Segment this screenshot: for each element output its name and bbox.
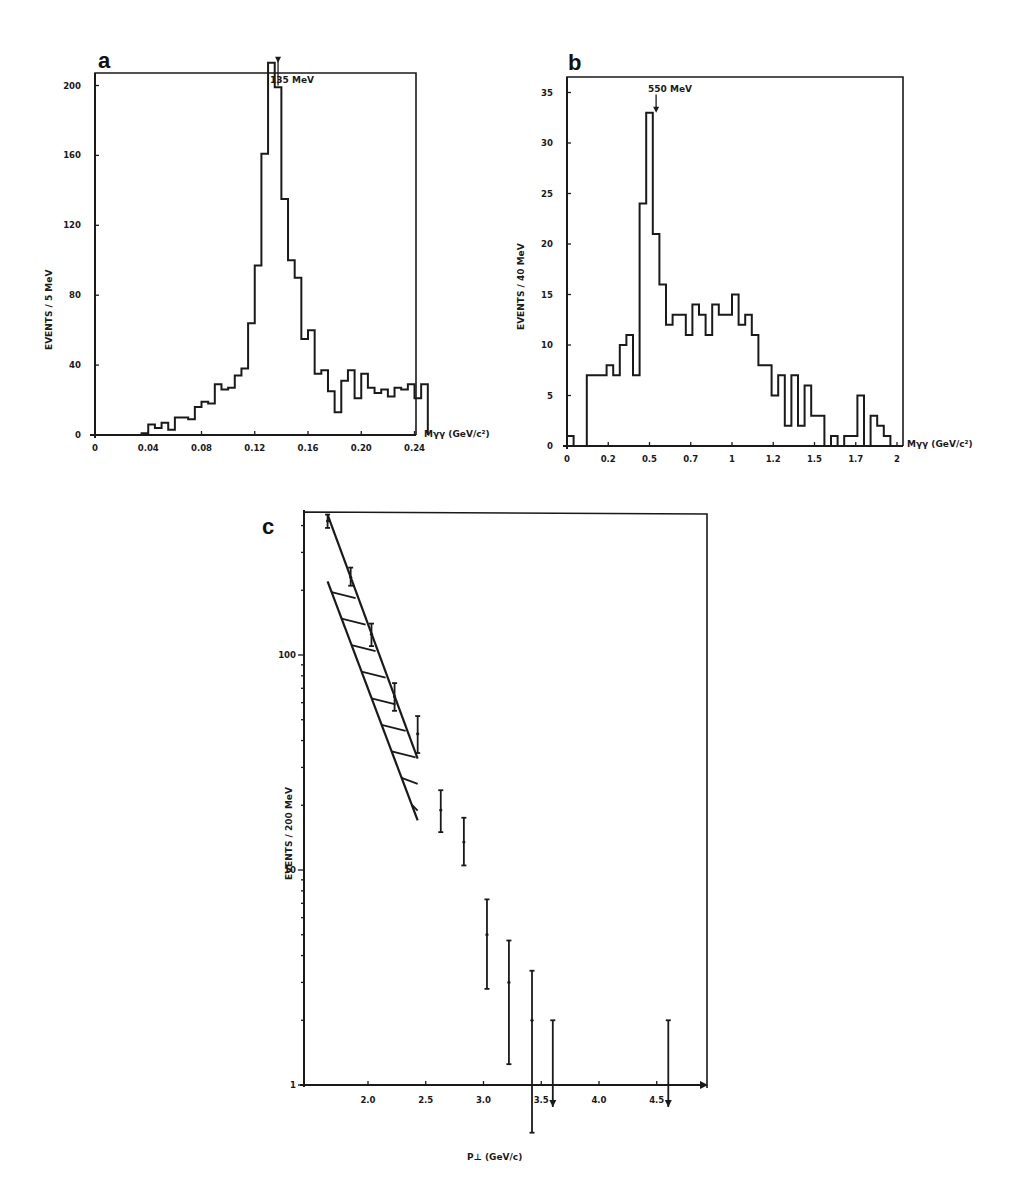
point-marker xyxy=(349,576,352,579)
data-point xyxy=(415,716,420,753)
down-arrow-icon xyxy=(665,1100,672,1107)
point-marker xyxy=(326,519,329,522)
histogram-bin xyxy=(805,385,812,446)
histogram-bin xyxy=(785,426,792,446)
histogram-bin xyxy=(673,315,680,446)
panel-a-xtick-label: 0.16 xyxy=(297,442,318,453)
upper-limit xyxy=(665,1020,672,1107)
histogram-bin xyxy=(375,393,382,435)
histogram-bin xyxy=(593,375,600,446)
histogram-bin xyxy=(381,390,388,435)
panel-b-peak-annotation: 550 MeV xyxy=(648,84,692,94)
band-lower-edge xyxy=(328,581,418,820)
data-point xyxy=(392,683,397,711)
point-marker xyxy=(416,732,419,735)
panel-b-ytick-label: 25 xyxy=(541,188,553,199)
panel-b-xtick-label: 1.2 xyxy=(766,453,781,464)
histogram-bin xyxy=(348,370,355,435)
histogram-bin xyxy=(626,335,633,446)
histogram-bin xyxy=(712,305,719,446)
histogram-bin xyxy=(778,375,785,446)
panel-a-ytick-label: 120 xyxy=(63,219,81,230)
histogram-bin xyxy=(295,278,302,435)
point-marker xyxy=(462,840,465,843)
panel-b: b 00.20.50.711.21.51.7205101520253035 55… xyxy=(516,50,973,464)
histogram-bin xyxy=(607,365,614,446)
histogram-bin xyxy=(301,339,308,435)
panel-c-frame xyxy=(304,512,707,1088)
histogram-bin xyxy=(388,397,395,435)
histogram-bin xyxy=(600,375,607,446)
panel-a-peak-annotation: 135 MeV xyxy=(270,75,314,85)
data-point xyxy=(461,818,466,866)
histogram-bin xyxy=(745,315,752,446)
histogram-bin xyxy=(235,376,242,435)
histogram-bin xyxy=(851,436,858,446)
panel-b-xtick-label: 1 xyxy=(729,453,735,464)
band-upper-edge xyxy=(328,515,418,759)
histogram-bin xyxy=(633,375,640,446)
panel-c-xtick-label: 3.5 xyxy=(534,1094,549,1105)
histogram-bin xyxy=(288,260,295,435)
point-marker xyxy=(439,808,442,811)
histogram-bin xyxy=(732,295,739,447)
panel-b-ytick-label: 15 xyxy=(541,289,553,300)
histogram-bin xyxy=(308,330,315,435)
panel-b-xtick-label: 1.5 xyxy=(807,453,822,464)
histogram-bin xyxy=(587,375,594,446)
histogram-bin xyxy=(215,384,222,435)
down-arrow-icon xyxy=(549,1100,556,1107)
point-marker xyxy=(393,695,396,698)
panel-b-xtick-label: 1.7 xyxy=(848,453,863,464)
panel-c-xtick-label: 4.5 xyxy=(649,1094,664,1105)
histogram-bin xyxy=(275,87,282,435)
histogram-bin xyxy=(335,412,342,435)
panel-c-xtick-label: 3.0 xyxy=(476,1094,491,1105)
histogram-bin xyxy=(640,204,647,446)
panel-a-ylabel: EVENTS / 5 MeV xyxy=(44,270,54,350)
histogram-bin xyxy=(699,315,706,446)
histogram-bin xyxy=(811,416,818,446)
panel-a-xtick-label: 0.24 xyxy=(404,442,425,453)
band-hatch xyxy=(362,672,386,678)
data-point xyxy=(530,971,535,1133)
panel-c-ytick-label: 100 xyxy=(278,649,296,660)
histogram-bin xyxy=(315,374,322,435)
histogram-bin xyxy=(188,419,195,435)
histogram-bin xyxy=(706,335,713,446)
panel-c-ytick-label: 1 xyxy=(290,1079,296,1090)
panel-b-ylabel: EVENTS / 40 MeV xyxy=(516,243,526,330)
band-hatch xyxy=(342,619,366,625)
histogram-bin xyxy=(772,396,779,447)
panel-b-ytick-label: 20 xyxy=(541,238,553,249)
histogram-bin xyxy=(844,436,851,446)
panel-b-arrowhead-icon xyxy=(653,107,659,113)
panel-c-xtick-label: 2.5 xyxy=(418,1094,433,1105)
histogram-bin xyxy=(202,402,209,435)
histogram-bin xyxy=(679,315,686,446)
histogram-bin xyxy=(857,396,864,447)
histogram-bin xyxy=(739,325,746,446)
histogram-bin xyxy=(758,365,765,446)
histogram-bin xyxy=(725,315,732,446)
histogram-bin xyxy=(248,323,255,435)
band-hatch xyxy=(372,698,396,704)
panel-a-bins xyxy=(142,63,428,435)
point-marker xyxy=(485,933,488,936)
panel-c-xtick-label: 2.0 xyxy=(360,1094,375,1105)
panel-a: a 00.040.080.120.160.200.240408012016020… xyxy=(44,48,490,453)
histogram-bin xyxy=(666,325,673,446)
histogram-bin xyxy=(653,234,660,446)
histogram-bin xyxy=(268,63,275,435)
panel-a-ytick-label: 160 xyxy=(63,149,81,160)
panel-a-xtick-label: 0.12 xyxy=(244,442,265,453)
panel-a-xtick-label: 0 xyxy=(92,442,98,453)
histogram-bin xyxy=(408,384,415,435)
panel-b-ytick-label: 35 xyxy=(541,87,553,98)
histogram-bin xyxy=(884,436,891,446)
histogram-bin xyxy=(182,418,189,435)
histogram-bin xyxy=(395,388,402,435)
point-marker xyxy=(370,633,373,636)
panel-b-ytick-label: 0 xyxy=(547,440,553,451)
histogram-bin xyxy=(228,388,235,435)
